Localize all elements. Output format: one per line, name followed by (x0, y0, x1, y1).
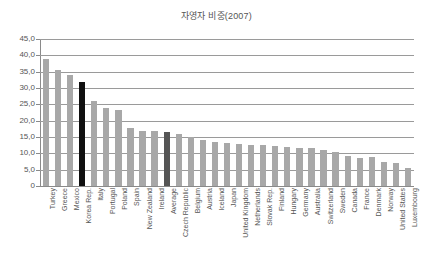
x-tick-label: Austria (206, 188, 213, 210)
y-tick-label: 20,0 (1, 117, 35, 125)
x-tick-label: Japan (230, 188, 237, 207)
bar[interactable] (91, 101, 97, 186)
bar-slot[interactable] (393, 39, 399, 186)
x-tick-label: Average (170, 188, 177, 214)
bar-slot[interactable] (284, 39, 290, 186)
y-tick-label: 10,0 (1, 149, 35, 157)
bar[interactable] (176, 134, 182, 186)
bar-slot[interactable] (151, 39, 157, 186)
bar-slot[interactable] (224, 39, 230, 186)
bar[interactable] (369, 157, 375, 186)
bar-slot[interactable] (127, 39, 133, 186)
bar[interactable] (127, 128, 133, 186)
x-tick-label: Finland (278, 188, 285, 211)
bar-slot[interactable] (103, 39, 109, 186)
bar[interactable] (115, 110, 121, 186)
bar[interactable] (188, 137, 194, 186)
bar[interactable] (212, 142, 218, 186)
y-tick-label: 40,0 (1, 51, 35, 59)
x-tick-label: United Kingdom (242, 188, 249, 238)
bar-slot[interactable] (212, 39, 218, 186)
bar-slot[interactable] (139, 39, 145, 186)
y-tick-label: 5,0 (1, 166, 35, 174)
bar-slot[interactable] (176, 39, 182, 186)
bar-slot[interactable] (296, 39, 302, 186)
bar[interactable] (284, 147, 290, 186)
bar-slot[interactable] (345, 39, 351, 186)
bar-slot[interactable] (67, 39, 73, 186)
y-tick-label: 25,0 (1, 100, 35, 108)
bar[interactable] (272, 146, 278, 186)
bar[interactable] (320, 150, 326, 186)
y-tick-label: 35,0 (1, 68, 35, 76)
x-tick-label: Portugal (109, 188, 116, 214)
bar-slot[interactable] (200, 39, 206, 186)
bar-slot[interactable] (272, 39, 278, 186)
bar[interactable] (103, 108, 109, 186)
bars-layer (40, 39, 414, 186)
bar[interactable] (405, 168, 411, 186)
bar[interactable] (139, 131, 145, 186)
bar[interactable] (296, 148, 302, 186)
bar-slot[interactable] (308, 39, 314, 186)
bar[interactable] (200, 140, 206, 186)
bar[interactable] (236, 144, 242, 186)
bar[interactable] (381, 162, 387, 186)
x-tick-label: New Zealand (146, 188, 153, 229)
x-tick-label: Czech Republic (182, 188, 189, 237)
bar[interactable] (308, 148, 314, 186)
bar[interactable] (357, 158, 363, 186)
bar[interactable] (260, 145, 266, 186)
bar-slot[interactable] (357, 39, 363, 186)
bar-slot[interactable] (381, 39, 387, 186)
bar[interactable] (151, 131, 157, 186)
x-tick-label: Norway (387, 188, 394, 212)
bar-slot[interactable] (369, 39, 375, 186)
bar[interactable] (79, 82, 85, 186)
x-tick-label: Poland (121, 188, 128, 210)
bar[interactable] (164, 132, 170, 186)
bar-slot[interactable] (188, 39, 194, 186)
bar-slot[interactable] (405, 39, 411, 186)
x-tick-label: Netherlands (254, 188, 261, 226)
x-tick-label: Slovak Rep. (266, 188, 273, 226)
bar-slot[interactable] (332, 39, 338, 186)
bar[interactable] (393, 163, 399, 186)
y-tick-label: 30,0 (1, 84, 35, 92)
bar-slot[interactable] (79, 39, 85, 186)
bar[interactable] (224, 143, 230, 186)
x-tick-label: Korea Rep. (85, 188, 92, 223)
x-tick-label: Iceland (218, 188, 225, 211)
bar-slot[interactable] (115, 39, 121, 186)
x-tick-label: Switzerland (327, 188, 334, 224)
bar[interactable] (55, 70, 61, 186)
bar-slot[interactable] (320, 39, 326, 186)
bar[interactable] (43, 59, 49, 186)
bar-slot[interactable] (260, 39, 266, 186)
bar-slot[interactable] (248, 39, 254, 186)
x-tick-label: Italy (97, 188, 104, 201)
bar[interactable] (67, 75, 73, 186)
x-tick-label: United States (399, 188, 406, 230)
bar[interactable] (248, 145, 254, 186)
x-tick-label: Belgium (194, 188, 201, 213)
x-tick-label: Greece (61, 188, 68, 211)
bar-slot[interactable] (164, 39, 170, 186)
x-tick-label: Hungary (290, 188, 297, 214)
x-tick-label: Canada (351, 188, 358, 213)
bar-slot[interactable] (43, 39, 49, 186)
bar-slot[interactable] (236, 39, 242, 186)
x-tick-label: Denmark (375, 188, 382, 216)
bar[interactable] (345, 156, 351, 186)
y-tick-label: 15,0 (1, 133, 35, 141)
x-tick-label: Sweden (339, 188, 346, 213)
chart-title: 자영자 비중(2007) (0, 9, 433, 22)
bar[interactable] (332, 152, 338, 186)
bar-slot[interactable] (55, 39, 61, 186)
x-axis-category-labels: TurkeyGreeceMexicoKorea Rep.ItalyPortuga… (40, 188, 414, 266)
x-tick-label: Turkey (49, 188, 56, 209)
y-tick-label: 0 (1, 182, 35, 190)
bar-slot[interactable] (91, 39, 97, 186)
y-tick-label: 45,0 (1, 35, 35, 43)
x-tick-label: Mexico (73, 188, 80, 210)
